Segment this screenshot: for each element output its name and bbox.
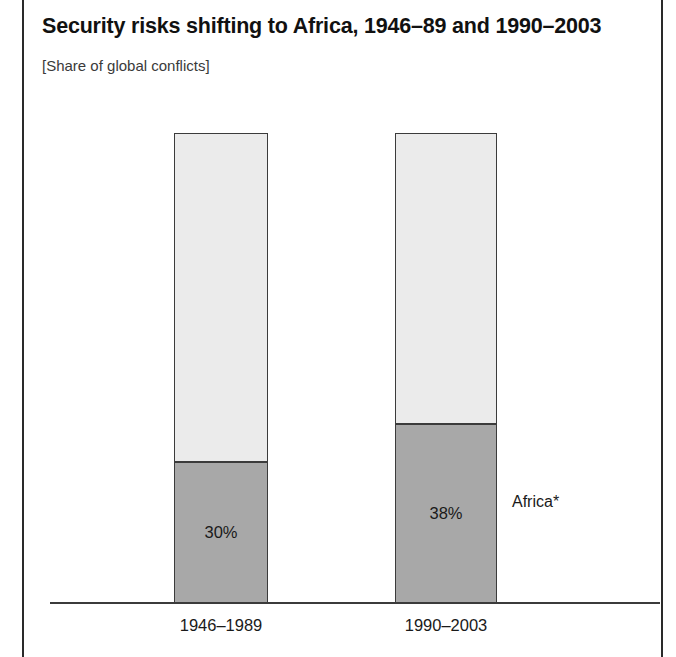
x-axis-line: [50, 602, 660, 604]
bar-1946-1989: 30%: [174, 133, 268, 603]
bar-segment-rest-of-world: [174, 133, 268, 462]
series-label-africa: Africa*: [512, 493, 559, 511]
x-axis-tick-label-1990-2003: 1990–2003: [385, 616, 507, 635]
plot-area: 30% 38% 1946–1989 1990–2003 Africa*: [0, 0, 676, 657]
bar-segment-rest-of-world: [395, 133, 497, 424]
bar-1990-2003: 38%: [395, 133, 497, 603]
x-axis-tick-label-1946-1989: 1946–1989: [160, 616, 282, 635]
chart-figure: Security risks shifting to Africa, 1946–…: [0, 0, 676, 657]
bar-value-label: 30%: [174, 523, 268, 542]
bar-value-label: 38%: [395, 504, 497, 523]
